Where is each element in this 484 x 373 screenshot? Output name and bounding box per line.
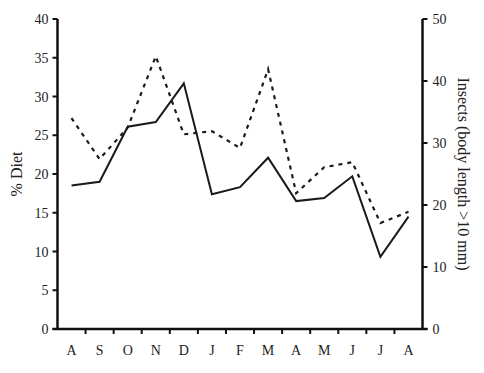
left-tick-label: 30 <box>35 90 49 105</box>
x-tick-label: O <box>123 343 133 358</box>
dual-axis-line-chart: 0510152025303540 01020304050 ASONDJFMAMJ… <box>0 0 484 373</box>
x-tick-label: J <box>350 343 356 358</box>
x-tick-label: N <box>151 343 161 358</box>
left-tick-label: 0 <box>42 322 49 337</box>
x-tick-label: M <box>318 343 331 358</box>
left-y-axis: 0510152025303540 <box>35 12 58 337</box>
x-tick-label: A <box>66 343 77 358</box>
diet-solid-line <box>72 83 409 257</box>
right-tick-label: 20 <box>433 198 447 213</box>
x-tick-label: A <box>291 343 302 358</box>
right-y-axis: 01020304050 <box>423 12 447 337</box>
x-tick-label: J <box>209 343 215 358</box>
x-tick-label: M <box>262 343 275 358</box>
left-axis-title: % Diet <box>8 151 25 196</box>
left-tick-label: 15 <box>35 206 49 221</box>
left-tick-label: 20 <box>35 167 49 182</box>
x-tick-label: F <box>236 343 244 358</box>
right-tick-label: 50 <box>433 12 447 27</box>
x-tick-label: S <box>96 343 104 358</box>
left-tick-label: 35 <box>35 51 49 66</box>
x-axis: ASONDJFMAMJJA <box>53 329 428 358</box>
right-tick-label: 40 <box>433 74 447 89</box>
series-layer <box>72 56 409 257</box>
right-tick-label: 0 <box>433 322 440 337</box>
right-tick-label: 10 <box>433 260 447 275</box>
x-tick-label: D <box>179 343 189 358</box>
left-tick-label: 10 <box>35 245 49 260</box>
right-tick-label: 30 <box>433 136 447 151</box>
left-tick-label: 5 <box>42 283 49 298</box>
x-tick-label: J <box>378 343 384 358</box>
x-tick-label: A <box>403 343 414 358</box>
right-axis-title: Insects (body length >10 mm) <box>454 78 472 271</box>
left-tick-label: 25 <box>35 128 49 143</box>
left-tick-label: 40 <box>35 12 49 27</box>
